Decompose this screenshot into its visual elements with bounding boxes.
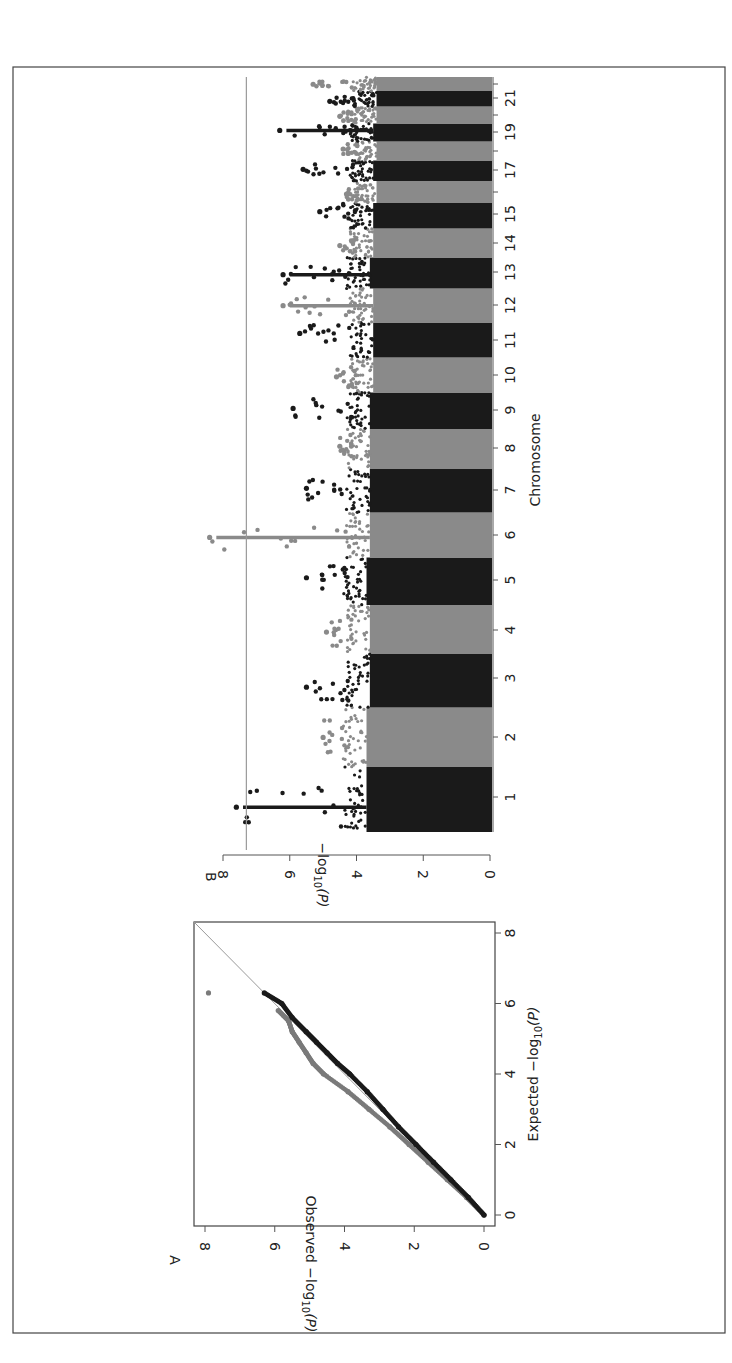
qq-point	[335, 1061, 340, 1066]
chromosome-band	[367, 767, 492, 832]
chromosome-tick-label: 4	[502, 625, 518, 634]
manhattan-x-axis: 123456789101112131415171921	[493, 77, 518, 832]
qq-point	[290, 1029, 295, 1034]
peak-point	[304, 486, 309, 491]
peak-point	[280, 303, 285, 308]
chromosome-tick-label: 17	[502, 161, 518, 179]
manhattan-x-axis-label: Chromosome	[527, 414, 543, 507]
chromosome-band	[373, 289, 492, 323]
chromosome-tick-label: 1	[502, 793, 518, 802]
qq-point	[304, 1050, 309, 1055]
qq-observed-tick-label: 4	[337, 1242, 353, 1251]
qq-point	[431, 1160, 436, 1165]
qq-expected-tick-label: 6	[502, 999, 518, 1008]
peak-point	[301, 167, 306, 172]
qq-plot: 0246802468 A Observed −log10(P) Expected…	[167, 922, 544, 1333]
panel-b-letter: B	[203, 872, 219, 882]
peak-point	[324, 629, 329, 634]
chromosome-tick-label: 6	[502, 530, 518, 539]
chromosome-tick-label: 5	[502, 576, 518, 585]
chromosome-band	[377, 91, 492, 107]
chromosome-tick-label: 3	[502, 674, 518, 683]
qq-point	[324, 1050, 329, 1055]
manhattan-plot: 02468 123456789101112131415171921 B −log…	[203, 76, 543, 908]
qq-point	[321, 1071, 326, 1076]
qq-point	[406, 1142, 411, 1147]
chromosome-band	[370, 469, 492, 513]
peak-point	[327, 99, 332, 104]
chromosome-tick-label: 9	[502, 406, 518, 415]
figure: 02468 123456789101112131415171921 B −log…	[0, 0, 732, 1363]
peak-point	[277, 128, 282, 133]
peak-point	[337, 114, 342, 119]
chromosome-band	[370, 654, 492, 708]
manhattan-y-tick-label: 6	[282, 870, 298, 879]
qq-point	[206, 990, 211, 995]
chromosome-tick-label: 15	[502, 205, 518, 223]
qq-point	[466, 1195, 471, 1200]
qq-point	[365, 1089, 370, 1094]
qq-point	[279, 1001, 284, 1006]
peak-point	[341, 147, 346, 152]
qq-expected-tick-label: 2	[502, 1140, 518, 1149]
peak-point	[317, 209, 322, 214]
qq-expected-axis-label: Expected −log10(P)	[525, 1007, 544, 1142]
chromosome-band	[377, 77, 492, 91]
peak-point	[290, 406, 295, 411]
chromosome-band	[370, 393, 492, 430]
qq-point	[413, 1142, 418, 1147]
chromosome-tick-label: 8	[502, 444, 518, 453]
manhattan-y-tick-label: 4	[349, 870, 365, 879]
peak-point	[280, 272, 285, 277]
peak-point	[337, 243, 342, 248]
qq-point	[276, 1008, 281, 1013]
chromosome-band	[370, 258, 492, 289]
manhattan-y-tick-label: 0	[482, 870, 498, 879]
qq-observed-tick-label: 0	[476, 1242, 492, 1251]
chromosome-band	[373, 229, 492, 258]
peak-point	[311, 82, 316, 87]
chromosome-band	[367, 708, 492, 768]
svg-text:Observed −log10(P): Observed −log10(P)	[300, 1196, 319, 1333]
chromosome-band	[370, 605, 492, 654]
peak-point	[234, 805, 239, 810]
svg-text:Expected −log10(P): Expected −log10(P)	[525, 1007, 544, 1142]
peak-point	[344, 191, 349, 196]
peak-point	[304, 685, 309, 690]
chromosome-tick-label: 12	[502, 296, 518, 314]
chromosome-band	[377, 181, 492, 203]
qq-point	[304, 1029, 309, 1034]
qq-point	[311, 1061, 316, 1066]
manhattan-y-axis: 02468	[215, 855, 498, 879]
peak-point	[304, 575, 309, 580]
qq-point	[297, 1040, 302, 1045]
manhattan-chromosome-bands	[367, 77, 492, 832]
qq-expected-tick-label: 0	[502, 1211, 518, 1220]
qq-points	[206, 990, 487, 1217]
peak-point	[207, 535, 212, 540]
chromosome-tick-label: 13	[502, 263, 518, 281]
qq-point	[481, 1212, 486, 1217]
qq-point	[387, 1124, 392, 1129]
chromosome-band	[370, 513, 492, 558]
chromosome-band	[373, 124, 492, 142]
chromosome-band	[377, 107, 492, 124]
chromosome-tick-label: 7	[502, 486, 518, 495]
qq-point	[345, 1089, 350, 1094]
chromosome-band	[370, 429, 492, 469]
qq-observed-tick-label: 6	[267, 1242, 283, 1251]
chromosome-tick-label: 10	[502, 366, 518, 384]
qq-expected-tick-label: 8	[502, 929, 518, 938]
peak-point	[321, 735, 326, 740]
qq-point	[380, 1107, 385, 1112]
chromosome-band	[367, 558, 492, 606]
manhattan-y-tick-label: 2	[415, 870, 431, 879]
qq-point	[347, 1071, 352, 1076]
chromosome-band	[377, 142, 492, 161]
chromosome-tick-label: 14	[502, 234, 518, 252]
chromosome-tick-label: 11	[502, 331, 518, 349]
qq-expected-tick-label: 4	[502, 1069, 518, 1078]
qq-point	[262, 990, 267, 995]
peak-point	[337, 444, 342, 449]
qq-observed-axis-label: Observed −log10(P)	[300, 1196, 319, 1333]
